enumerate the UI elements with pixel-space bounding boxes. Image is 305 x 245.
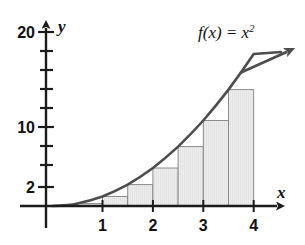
- x-axis-tick-labels: 1 2 3 4: [98, 217, 258, 234]
- y-axis-tick-labels: 20 10 2: [17, 24, 35, 196]
- x-tick-label: 3: [199, 217, 208, 234]
- y-tick-label: 2: [26, 179, 35, 196]
- bar-rect: [128, 185, 153, 206]
- x-axis-label: x: [276, 183, 286, 202]
- bar-rect: [203, 121, 228, 207]
- y-axis-label: y: [56, 17, 66, 36]
- function-annotation: f(x) = x2: [198, 22, 255, 42]
- x-tick-label: 4: [249, 217, 258, 234]
- y-tick-label: 20: [17, 24, 35, 41]
- x-tick-label: 2: [148, 217, 157, 234]
- bar-rect: [178, 147, 203, 206]
- y-tick-label: 10: [17, 119, 35, 136]
- bar-rect: [153, 168, 178, 206]
- x-tick-label: 1: [98, 217, 107, 234]
- function-annotation-exponent: 2: [249, 22, 255, 34]
- chart-canvas: 20 10 2 1 2 3 4 y x f(x) = x2: [0, 0, 305, 245]
- bar-rect: [103, 197, 128, 207]
- riemann-sum-figure: 20 10 2 1 2 3 4 y x f(x) = x2: [0, 0, 305, 245]
- bar-rect: [229, 90, 254, 206]
- riemann-rectangles-group: [77, 90, 253, 206]
- function-annotation-base: f(x) = x: [198, 23, 250, 42]
